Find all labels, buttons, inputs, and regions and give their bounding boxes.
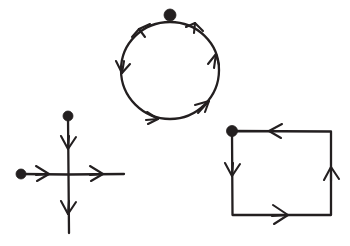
figure-canvas: Three oriented curves with direction arr… — [0, 0, 350, 246]
square-curve — [225, 124, 339, 224]
cross-arrow-upper-vertical-tail — [68, 136, 69, 149]
cross-arrow-right-horizontal-tail — [90, 174, 103, 175]
circle-start-dot — [164, 9, 176, 21]
circle-curve-path — [121, 22, 219, 119]
circle-arrow-top-right-tail — [194, 23, 195, 33]
cross-arrow-left-horizontal-tail — [36, 174, 49, 175]
circle-arrow-bottom-left — [147, 112, 158, 124]
circle-arrow-bottom-left-tail — [146, 119, 158, 120]
circle-arrow-right — [208, 54, 219, 65]
square-arrow-bottom-tail — [272, 215, 288, 216]
square-curve-path — [232, 131, 331, 215]
cross-left-dot — [16, 169, 26, 179]
circle-curve — [116, 9, 219, 124]
square-arrow-left-tail — [232, 163, 233, 176]
cross-curve — [16, 111, 124, 233]
cross-top-dot — [63, 111, 73, 121]
cross-arrow-lower-vertical-tail — [68, 201, 69, 214]
square-start-dot — [227, 126, 238, 137]
curves-figure-svg: Three oriented curves with direction arr… — [0, 0, 350, 246]
